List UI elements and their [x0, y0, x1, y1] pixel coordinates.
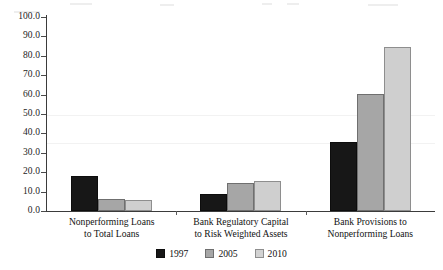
y-axis-tick: [41, 114, 46, 115]
y-axis-tick-label: 40.0: [0, 128, 40, 138]
bar-group: [47, 17, 176, 211]
x-axis-category-label: Nonperforming Loansto Total Loans: [47, 216, 176, 241]
bar-group: [176, 17, 305, 211]
y-axis-tick-label: 30.0: [0, 148, 40, 158]
bar-2005-group1: [98, 199, 125, 211]
y-axis-tick: [41, 56, 46, 57]
legend-label: 1997: [169, 249, 188, 259]
scan-artifact: [70, 3, 92, 5]
y-axis-tick-label: 80.0: [0, 51, 40, 61]
bar-2010-group2: [254, 181, 281, 211]
bar-chart-screenshot: 100.090.080.070.060.050.040.030.020.010.…: [0, 0, 443, 270]
legend-swatch-2010-icon: [255, 249, 264, 258]
y-axis-tick: [41, 95, 46, 96]
scan-artifact: [287, 3, 299, 5]
bar-2005-group2: [227, 183, 254, 211]
x-axis-category-label-line: to Total Loans: [47, 228, 176, 240]
scan-artifact: [262, 3, 272, 5]
bar-1997-group3: [330, 142, 357, 211]
legend-swatch-1997-icon: [156, 249, 165, 258]
scan-artifact: [160, 4, 174, 6]
y-axis-tick: [41, 17, 46, 18]
y-axis-tick-label: 50.0: [0, 109, 40, 119]
legend-label: 2010: [268, 249, 287, 259]
x-axis-separator: [306, 211, 307, 215]
scan-artifact: [368, 4, 398, 6]
y-axis-tick-label: 20.0: [0, 167, 40, 177]
bar-group: [306, 17, 435, 211]
y-axis-tick: [41, 211, 46, 212]
y-axis-tick-label: 0.0: [0, 206, 40, 216]
x-axis-category-label-line: Bank Provisions to: [306, 216, 435, 228]
y-axis-tick-label: 90.0: [0, 31, 40, 41]
y-axis-tick-label: 100.0: [0, 12, 40, 22]
x-axis-category-label-line: Nonperforming Loans: [47, 216, 176, 228]
bar-2010-group1: [125, 200, 152, 211]
legend-item-2005[interactable]: 2005: [205, 249, 237, 259]
legend-label: 2005: [218, 249, 237, 259]
x-axis-category-label: Bank Provisions toNonperforming Loans: [306, 216, 435, 241]
y-axis-tick-label: 10.0: [0, 187, 40, 197]
y-axis-tick: [41, 133, 46, 134]
x-axis-category-label-line: Nonperforming Loans: [306, 228, 435, 240]
y-axis-tick: [41, 75, 46, 76]
bar-2005-group3: [357, 94, 384, 211]
x-axis-separator: [176, 211, 177, 215]
x-axis-category-label-line: Bank Regulatory Capital: [176, 216, 305, 228]
legend-item-1997[interactable]: 1997: [156, 249, 188, 259]
x-axis-line: [46, 211, 435, 212]
x-axis-category-label-line: to Risk Weighted Assets: [176, 228, 305, 240]
legend-swatch-2005-icon: [205, 249, 214, 258]
y-axis-tick: [41, 153, 46, 154]
y-axis-tick: [41, 36, 46, 37]
y-axis-tick-label: 60.0: [0, 90, 40, 100]
x-axis-category-label: Bank Regulatory Capitalto Risk Weighted …: [176, 216, 305, 241]
y-axis-tick: [41, 192, 46, 193]
plot-area: [47, 17, 435, 211]
bar-1997-group2: [200, 194, 227, 211]
bar-2010-group3: [384, 47, 411, 211]
bar-1997-group1: [71, 176, 98, 211]
chart-legend: 199720052010: [0, 249, 443, 259]
legend-item-2010[interactable]: 2010: [255, 249, 287, 259]
y-axis-tick: [41, 172, 46, 173]
y-axis-tick-label: 70.0: [0, 70, 40, 80]
